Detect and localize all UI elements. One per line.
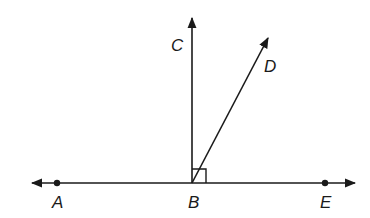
label-C: C [171,36,184,55]
point-E [322,180,328,186]
label-D: D [264,57,276,76]
label-B: B [188,193,199,212]
label-A: A [51,193,63,212]
ray-BD [192,38,268,183]
point-A [54,180,60,186]
label-E: E [320,193,332,212]
geometry-diagram: A B E C D [0,0,370,218]
